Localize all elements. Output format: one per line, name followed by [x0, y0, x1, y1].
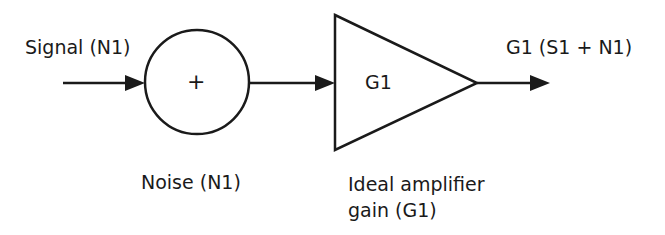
amplifier-triangle: [335, 15, 477, 150]
input-signal-label: Signal (N1): [25, 36, 131, 59]
junction-to-amplifier-arrow: [249, 75, 335, 91]
diagram-canvas: Signal (N1) + G1 G1 (S1 + N1) Noise (N1)…: [0, 0, 665, 235]
amplifier-caption-line2: gain (G1): [348, 199, 437, 222]
output-label: G1 (S1 + N1): [506, 36, 632, 59]
summing-plus-symbol: +: [187, 69, 205, 95]
amplifier-gain-label: G1: [365, 71, 392, 94]
noise-label: Noise (N1): [141, 171, 241, 194]
amplifier-caption-line1: Ideal amplifier: [348, 173, 485, 196]
input-arrow: [63, 75, 145, 91]
output-arrow: [477, 75, 550, 91]
